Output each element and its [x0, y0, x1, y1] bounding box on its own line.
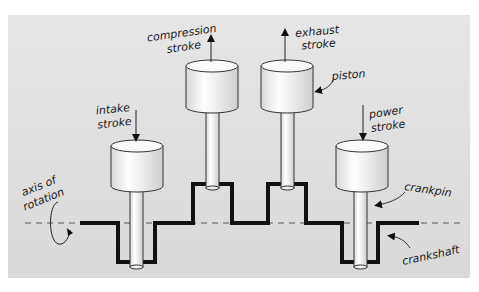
label-piston: piston	[330, 67, 366, 83]
crankshaft-pointer-icon	[391, 236, 410, 248]
label-crankshaft: crankshaft	[401, 243, 461, 268]
label-crankpin: crankpin	[404, 180, 453, 200]
crankshaft-diagram: intake stroke compression stroke exhaust…	[0, 0, 479, 292]
piston-pointer-icon	[318, 80, 333, 91]
piston-compression	[186, 60, 238, 190]
label-exhaust-2: stroke	[301, 37, 337, 53]
piston-exhaust	[261, 60, 313, 190]
crankpin-pointer-icon	[378, 192, 405, 205]
label-intake-2: stroke	[97, 115, 133, 132]
